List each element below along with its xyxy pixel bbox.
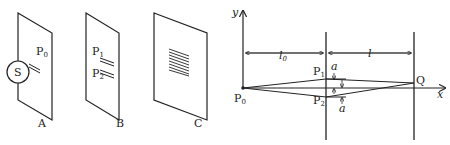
slit-p1-label: P1 [92,45,104,59]
geometry-figure: y x l0 l P0 P1 P2 Q a a [231,6,445,140]
a-bottom-label: a [339,102,346,115]
x-axis-label: x [437,88,444,101]
fringe-pattern [169,49,189,76]
source-label: S [14,66,22,79]
l-label: l [368,47,372,60]
screen-c-label: C [194,117,202,130]
l0-label: l0 [279,49,288,63]
screen-b: P1 P2 B [86,13,124,130]
p2-label: P2 [313,94,325,108]
screen-a: S P0 A [7,13,52,130]
a-top-label: a [331,60,338,73]
p0-label: P0 [234,92,246,106]
slit-p2-label: P2 [92,67,104,81]
screen-c: C [154,13,207,130]
slit-p0-label: P0 [36,45,48,59]
p0-point [241,86,245,90]
screen-b-label: B [116,117,124,130]
q-label: Q [416,74,425,87]
p1-label: P1 [313,65,325,79]
screen-a-label: A [37,117,47,130]
y-axis-label: y [231,6,239,19]
double-slit-diagram: S P0 A P1 P2 B C y [0,0,450,145]
